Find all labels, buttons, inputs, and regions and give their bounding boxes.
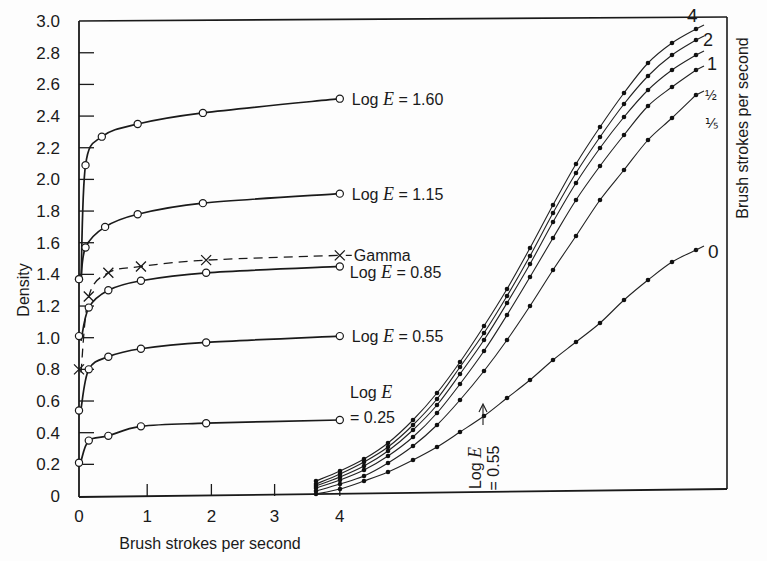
dot-marker	[551, 203, 556, 208]
dot-marker	[505, 294, 510, 299]
dot-marker	[338, 487, 343, 492]
dot-marker	[411, 423, 416, 428]
dot-marker	[574, 181, 579, 186]
open-circle-marker	[85, 437, 92, 444]
dot-marker	[482, 349, 487, 354]
dot-marker	[362, 464, 367, 469]
x-tick-label: 4	[335, 507, 344, 526]
dot-marker	[622, 298, 627, 303]
x-axis-ticks: 01234	[74, 484, 344, 526]
dot-marker	[528, 246, 533, 251]
dot-marker	[551, 236, 556, 241]
dot-marker	[338, 478, 343, 483]
dot-marker	[411, 435, 416, 440]
dot-marker	[435, 445, 440, 450]
curve-end-label: 0	[708, 241, 719, 262]
dot-marker	[458, 365, 463, 370]
dot-marker	[362, 479, 367, 484]
x-tick-label: 0	[74, 507, 83, 526]
open-circle-marker	[134, 120, 141, 127]
dot-marker	[386, 461, 391, 466]
open-circle-marker	[137, 277, 144, 284]
dot-marker	[314, 492, 319, 497]
dot-marker	[411, 444, 416, 449]
y-tick-label: 0.2	[36, 455, 60, 474]
dot-marker	[574, 171, 579, 176]
y-tick-label: 1.6	[36, 234, 60, 253]
left-panel-curves	[74, 95, 345, 466]
series-log-e-0-25	[75, 416, 343, 466]
dot-marker	[386, 445, 391, 450]
dot-marker	[362, 460, 367, 465]
open-circle-marker	[105, 432, 112, 439]
open-circle-marker	[98, 133, 105, 140]
x-axis-title: Brush strokes per second	[119, 535, 300, 552]
curve-label: Log E = 0.55	[352, 326, 444, 346]
dot-marker	[505, 287, 510, 292]
dot-marker	[598, 321, 603, 326]
dot-marker	[574, 234, 579, 239]
curve-end-label: ⅕	[705, 115, 719, 131]
dot-marker	[435, 397, 440, 402]
dot-marker	[622, 91, 627, 96]
dot-marker	[458, 382, 463, 387]
dot-marker	[458, 430, 463, 435]
y-tick-label: 1.8	[36, 202, 60, 221]
open-circle-marker	[336, 333, 343, 340]
dot-marker	[435, 403, 440, 408]
curve-label: Log E = 1.15	[352, 184, 444, 204]
curve-end-label: ½	[705, 87, 717, 103]
open-circle-marker	[203, 269, 210, 276]
dot-marker	[646, 104, 651, 109]
y-tick-label: 1.4	[36, 265, 60, 284]
dot-marker	[482, 369, 487, 374]
y-tick-label: 0	[51, 487, 60, 506]
dot-marker	[435, 423, 440, 428]
open-circle-marker	[101, 223, 108, 230]
dot-marker	[505, 301, 510, 306]
curve-label: Log E = 1.60	[352, 89, 444, 109]
dot-marker	[482, 338, 487, 343]
curve-end-label: 1	[707, 54, 717, 74]
dot-marker	[528, 262, 533, 267]
y-tick-label: 2.8	[36, 44, 60, 63]
open-circle-marker	[203, 420, 210, 427]
y-tick-label: 1.2	[36, 297, 60, 316]
y-tick-label: 2.2	[36, 139, 60, 158]
svg-text:Log E: Log E	[465, 447, 485, 489]
x-tick-label: 1	[142, 507, 151, 526]
dot-marker	[435, 411, 440, 416]
dot-marker	[551, 220, 556, 225]
open-circle-marker	[75, 407, 82, 414]
open-circle-marker	[137, 345, 144, 352]
dot-marker	[622, 168, 627, 173]
dot-marker	[622, 102, 627, 107]
curve-end-label: 4	[687, 5, 698, 26]
dot-marker	[338, 482, 343, 487]
dot-marker	[386, 454, 391, 459]
dot-marker	[670, 41, 675, 46]
series-log-e-1-60	[75, 95, 343, 283]
dot-marker	[458, 372, 463, 377]
y-axis-title: Density	[15, 263, 32, 316]
open-circle-marker	[137, 423, 144, 430]
dot-marker	[551, 211, 556, 216]
open-circle-marker	[85, 366, 92, 373]
dot-marker	[646, 61, 651, 66]
open-circle-marker	[105, 287, 112, 294]
log-e-055-annotation: Log E= 0.55	[465, 404, 502, 490]
dot-marker	[574, 162, 579, 167]
dot-marker	[646, 138, 651, 143]
dot-marker	[670, 85, 675, 90]
svg-text:= 0.55: = 0.55	[485, 445, 502, 490]
y-tick-label: 1.0	[36, 329, 60, 348]
dot-marker	[670, 68, 675, 73]
open-circle-marker	[82, 162, 89, 169]
dot-marker	[435, 391, 440, 396]
dot-marker	[505, 338, 510, 343]
right-axis-title: Brush strokes per second	[734, 37, 751, 218]
dot-marker	[386, 470, 391, 475]
dot-marker	[528, 275, 533, 280]
x-tick-label: 3	[270, 507, 279, 526]
y-axis-ticks: 00.20.40.60.81.01.21.41.61.82.02.22.42.6…	[36, 12, 94, 506]
